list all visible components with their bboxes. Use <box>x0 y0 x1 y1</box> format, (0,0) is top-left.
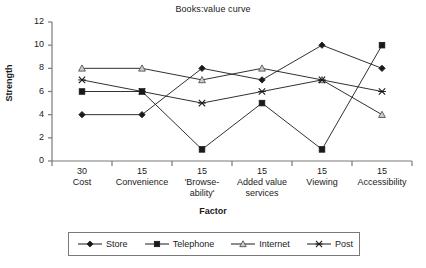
data-point-square <box>199 147 205 153</box>
data-point-cross <box>378 88 386 94</box>
data-point-square <box>319 147 325 153</box>
x-axis-title: Factor <box>0 206 426 216</box>
data-point-cross <box>78 77 86 83</box>
legend: StoreTelephoneInternetPost <box>68 232 360 256</box>
legend-label: Post <box>335 239 353 249</box>
legend-items: StoreTelephoneInternetPost <box>69 233 361 255</box>
legend-label: Telephone <box>173 239 215 249</box>
chart-container: Books:value curve Strength 024681012 30C… <box>0 0 426 268</box>
data-point-cross <box>315 241 322 247</box>
data-point-cross <box>198 100 206 106</box>
legend-label: Store <box>106 239 128 249</box>
data-point-cross <box>258 88 266 94</box>
data-point-triangle <box>259 65 266 71</box>
data-point-diamond <box>319 42 325 48</box>
plot-area <box>0 0 426 268</box>
legend-marker-triangle-icon <box>230 238 256 250</box>
legend-item-post[interactable]: Post <box>306 238 353 250</box>
data-point-square <box>259 100 265 106</box>
series-store <box>79 42 385 118</box>
data-point-diamond <box>259 77 265 83</box>
data-point-diamond <box>87 241 93 247</box>
data-point-square <box>79 89 85 95</box>
legend-item-internet[interactable]: Internet <box>230 238 290 250</box>
data-point-diamond <box>79 111 85 117</box>
legend-item-store[interactable]: Store <box>77 238 128 250</box>
data-point-triangle <box>379 111 386 117</box>
legend-marker-cross-icon <box>306 238 332 250</box>
legend-item-telephone[interactable]: Telephone <box>144 238 215 250</box>
legend-label: Internet <box>259 239 290 249</box>
data-point-diamond <box>379 65 385 71</box>
legend-marker-square-icon <box>144 238 170 250</box>
series-line <box>82 45 382 115</box>
legend-marker-diamond-icon <box>77 238 103 250</box>
data-point-square <box>154 241 159 246</box>
data-point-square <box>379 42 385 48</box>
